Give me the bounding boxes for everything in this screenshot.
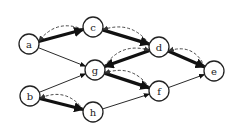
nodes-layer: acdegfbh — [19, 17, 224, 122]
edge-a-g — [38, 48, 85, 67]
node-label: c — [90, 22, 96, 33]
node-h: h — [83, 102, 103, 122]
node-b: b — [20, 86, 40, 106]
edge-g-f — [105, 73, 150, 88]
node-label: b — [27, 91, 33, 102]
edge-a-c — [39, 30, 84, 42]
node-e: e — [204, 61, 224, 81]
edge-c-d — [103, 30, 150, 44]
node-a: a — [19, 34, 39, 54]
node-label: g — [92, 65, 99, 76]
edges-layer — [38, 26, 205, 110]
edge-h-f — [103, 94, 150, 109]
node-label: d — [156, 42, 163, 53]
graph-svg: acdegfbh — [0, 0, 242, 131]
node-label: a — [26, 39, 32, 50]
node-g: g — [85, 60, 105, 80]
node-d: d — [149, 37, 169, 57]
edge-b-h — [40, 98, 84, 109]
graph-diagram: acdegfbh — [0, 0, 242, 131]
node-c: c — [83, 17, 103, 37]
node-f: f — [149, 81, 169, 101]
node-label: h — [90, 107, 97, 118]
node-label: e — [211, 66, 217, 77]
edge-f-e — [168, 74, 204, 87]
edge-b-g — [39, 74, 85, 93]
edge-d-e — [168, 51, 205, 67]
